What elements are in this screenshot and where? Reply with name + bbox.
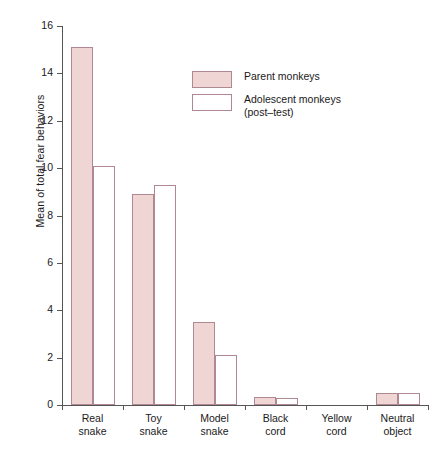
x-axis-category-label: Toysnake <box>123 412 184 438</box>
y-axis-tick: 10 <box>57 168 62 169</box>
x-axis-tick <box>428 405 429 410</box>
bar <box>254 397 276 405</box>
bar <box>276 398 298 405</box>
y-axis-line <box>62 26 63 405</box>
x-axis-category-label-line: Model <box>184 412 245 425</box>
x-axis-category-label-line: snake <box>184 425 245 438</box>
bar-chart-figure: Mean of total fear behaviors 02468101214… <box>0 0 444 459</box>
bar <box>215 355 237 405</box>
x-axis-category-label-line: snake <box>62 425 123 438</box>
x-axis-category-label-line: snake <box>123 425 184 438</box>
x-axis-tick <box>367 405 368 410</box>
x-axis-category-label-line: Toy <box>123 412 184 425</box>
x-axis-category-label-line: cord <box>245 425 306 438</box>
legend-label-parent-monkeys: Parent monkeys <box>244 70 372 83</box>
y-axis-tick-label: 6 <box>47 256 53 268</box>
legend-label-adolescent-monkeys: Adolescent monkeys (post–test) <box>244 93 372 119</box>
bar <box>376 393 398 405</box>
x-axis-category-label: Yellowcord <box>306 412 367 438</box>
bar <box>71 47 93 405</box>
x-axis-tick <box>184 405 185 410</box>
y-axis-tick: 16 <box>57 26 62 27</box>
x-axis-tick <box>245 405 246 410</box>
bar <box>132 194 154 405</box>
y-axis-tick: 6 <box>57 263 62 264</box>
y-axis-tick-label: 0 <box>47 398 53 410</box>
x-axis-tick <box>123 405 124 410</box>
y-axis-tick-label: 4 <box>47 303 53 315</box>
x-axis-category-label-line: Neutral <box>367 412 428 425</box>
x-axis-tick <box>306 405 307 410</box>
bar <box>93 166 115 405</box>
bar <box>154 185 176 405</box>
x-axis-category-label: Blackcord <box>245 412 306 438</box>
x-axis-category-label-line: object <box>367 425 428 438</box>
x-axis-category-label-line: Real <box>62 412 123 425</box>
chart-legend: Parent monkeys Adolescent monkeys (post–… <box>192 70 372 123</box>
y-axis-tick-label: 16 <box>41 19 53 31</box>
x-axis-category-label-line: Black <box>245 412 306 425</box>
x-axis-category-label: Realsnake <box>62 412 123 438</box>
legend-item-adolescent-monkeys: Adolescent monkeys (post–test) <box>192 93 372 119</box>
y-axis-tick: 8 <box>57 216 62 217</box>
y-axis-tick-label: 10 <box>41 161 53 173</box>
bar <box>193 322 215 405</box>
legend-label-adolescent-line2: (post–test) <box>244 106 372 119</box>
y-axis-tick-label: 2 <box>47 351 53 363</box>
x-axis-category-label-line: Yellow <box>306 412 367 425</box>
bar <box>398 393 420 405</box>
legend-item-parent-monkeys: Parent monkeys <box>192 70 372 89</box>
y-axis-tick-label: 8 <box>47 209 53 221</box>
legend-swatch-filled-icon <box>192 71 232 88</box>
x-axis-tick <box>62 405 63 410</box>
x-axis-category-label: Modelsnake <box>184 412 245 438</box>
y-axis-tick: 14 <box>57 73 62 74</box>
y-axis-tick: 12 <box>57 121 62 122</box>
y-axis-tick: 2 <box>57 358 62 359</box>
y-axis-tick-label: 12 <box>41 114 53 126</box>
legend-swatch-open-icon <box>192 94 232 111</box>
y-axis-tick-label: 14 <box>41 66 53 78</box>
x-axis-category-label-line: cord <box>306 425 367 438</box>
legend-label-adolescent-line1: Adolescent monkeys <box>244 93 341 105</box>
y-axis-tick: 4 <box>57 310 62 311</box>
x-axis-category-label: Neutralobject <box>367 412 428 438</box>
